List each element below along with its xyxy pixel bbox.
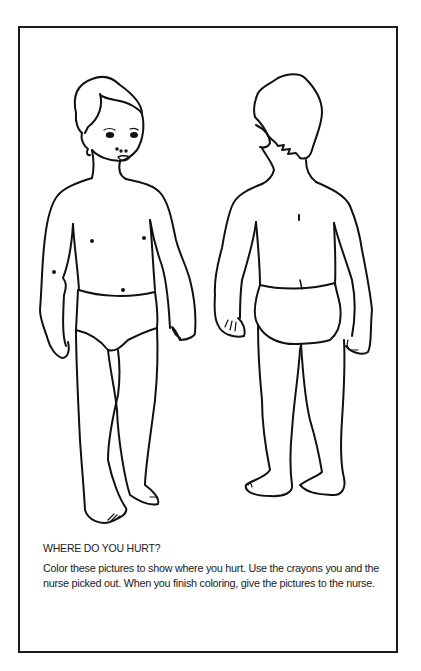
child-front-view[interactable]	[40, 77, 195, 523]
body-figures	[0, 0, 421, 540]
page-title: WHERE DO YOU HURT?	[43, 542, 160, 554]
instructions-text: Color these pictures to show where you h…	[43, 561, 388, 590]
child-back-view[interactable]	[215, 74, 372, 496]
